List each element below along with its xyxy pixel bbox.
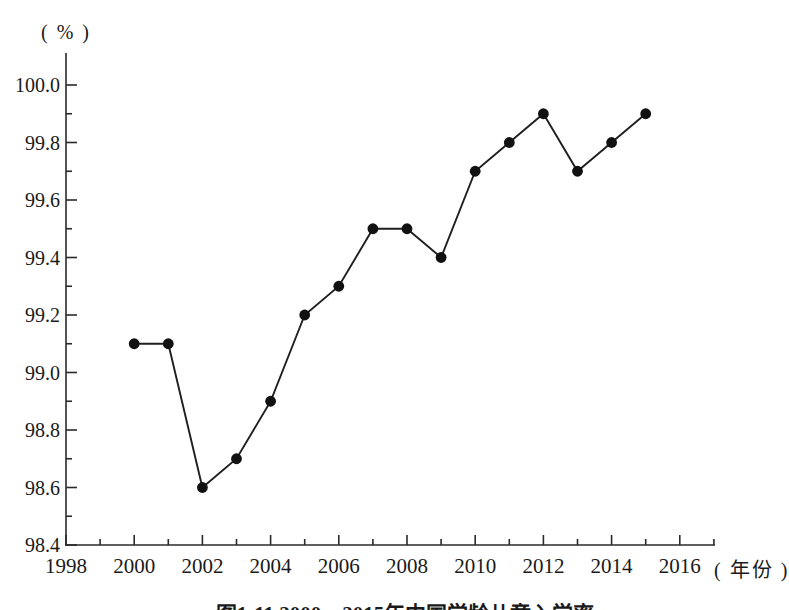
y-axis-unit-label: ( % ) (41, 21, 91, 44)
figure-caption: 图1-11 2000～2015年中国学龄儿童入学率 (0, 597, 789, 610)
data-point-marker (265, 396, 276, 407)
y-tick-label: 98.6 (25, 477, 60, 499)
x-tick-label: 2016 (659, 554, 701, 578)
axes (65, 53, 715, 546)
data-point-marker (470, 166, 481, 177)
data-point-marker (333, 281, 344, 292)
y-tick-label: 99.6 (25, 189, 60, 211)
x-tick-label: 2004 (250, 554, 293, 578)
line-chart-canvas: 98.498.698.899.099.299.499.699.8100.0199… (0, 0, 789, 610)
data-point-marker (197, 482, 208, 493)
data-point-marker (402, 223, 413, 234)
y-tick-label: 99.0 (25, 362, 60, 384)
data-point-marker (538, 108, 549, 119)
data-point-marker (231, 453, 242, 464)
x-tick-label: 2012 (522, 554, 564, 578)
y-tick-label: 98.4 (25, 534, 60, 556)
x-axis-ticks: 1998200020022004200620082010201220142016 (45, 535, 714, 578)
y-tick-label: 100.0 (15, 74, 60, 96)
data-point-marker (504, 137, 515, 148)
data-line (134, 114, 646, 488)
data-point-marker (163, 338, 174, 349)
data-point-marker (299, 310, 310, 321)
y-axis-ticks: 98.498.698.899.099.299.499.699.8100.0 (15, 74, 77, 556)
x-tick-label: 2008 (386, 554, 428, 578)
data-point-marker (606, 137, 617, 148)
x-tick-label: 2002 (181, 554, 223, 578)
data-point-marker (572, 166, 583, 177)
x-tick-label: 2006 (318, 554, 360, 578)
x-tick-label: 2010 (454, 554, 496, 578)
x-tick-label: 2014 (591, 554, 634, 578)
figure: 98.498.698.899.099.299.499.699.8100.0199… (0, 0, 789, 610)
y-tick-label: 99.2 (25, 304, 60, 326)
y-tick-label: 98.8 (25, 419, 60, 441)
data-point-marker (129, 338, 140, 349)
data-points (129, 108, 651, 493)
data-point-marker (368, 223, 379, 234)
data-point-marker (436, 252, 447, 263)
x-tick-label: 1998 (45, 554, 87, 578)
x-tick-label: 2000 (113, 554, 155, 578)
x-axis-unit-label: ( 年份 ) (714, 554, 789, 583)
y-tick-label: 99.4 (25, 247, 60, 269)
data-point-marker (640, 108, 651, 119)
y-tick-label: 99.8 (25, 132, 60, 154)
